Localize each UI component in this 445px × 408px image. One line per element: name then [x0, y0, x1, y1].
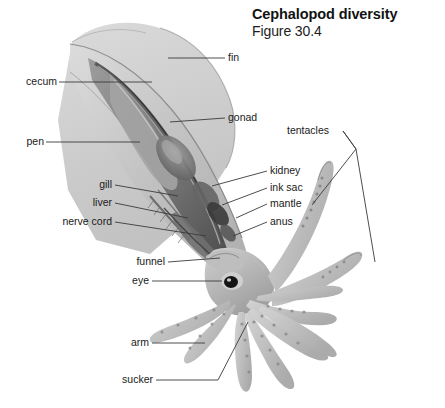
figure-canvas: Cephalopod diversity Figure 30.4: [0, 0, 445, 408]
label-funnel: funnel: [0, 256, 165, 267]
label-arm: arm: [0, 337, 149, 348]
label-sucker: sucker: [0, 374, 153, 385]
label-mantle: mantle: [270, 198, 302, 209]
label-kidney: kidney: [270, 165, 300, 176]
label-nerve-cord: nerve cord: [0, 216, 112, 227]
label-pen: pen: [0, 136, 44, 147]
eye-shape: [221, 272, 243, 290]
label-tentacles: tentacles: [287, 125, 329, 136]
label-gill: gill: [0, 179, 112, 190]
label-fin: fin: [228, 52, 239, 63]
label-eye: eye: [0, 275, 149, 286]
label-anus: anus: [270, 216, 293, 227]
label-cecum: cecum: [0, 76, 57, 87]
label-liver: liver: [0, 197, 112, 208]
label-gonad: gonad: [228, 112, 257, 123]
label-ink-sac: ink sac: [270, 182, 303, 193]
